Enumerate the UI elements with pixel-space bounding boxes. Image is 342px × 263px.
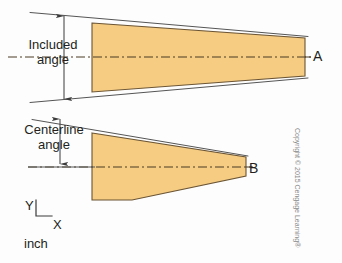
included-angle-label: Included angle <box>16 37 90 68</box>
axis-unit-label: inch <box>24 236 48 251</box>
copyright-notice: Copyright © 2015 Cengage Learning® <box>294 128 301 247</box>
centerline-angle-label: Centerline angle <box>14 122 94 153</box>
axis-indicator <box>36 200 52 216</box>
callout-a-label: A <box>313 48 322 65</box>
technical-diagram-figure: Included angle Centerline angle A B Y X … <box>0 0 342 263</box>
axis-x-label: X <box>53 217 62 232</box>
callout-b-label: B <box>249 160 258 177</box>
axis-y-label: Y <box>25 198 34 213</box>
axis-corner-glyph <box>36 200 52 216</box>
